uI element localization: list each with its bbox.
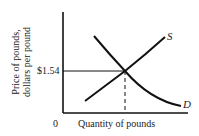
supply-curve: [85, 37, 165, 101]
y-axis-label-line-2: dollars per pound: [21, 27, 32, 97]
demand-label: D: [182, 98, 191, 110]
origin-label: 0: [53, 118, 58, 129]
supply-label: S: [167, 30, 173, 42]
x-axis-label: Quantity of pounds: [78, 118, 155, 129]
y-axis-label-line-1: Price of pounds,: [10, 29, 21, 94]
price-tick-label: $1.54: [37, 65, 60, 76]
supply-demand-chart: S D $1.54 0 Quantity of pounds Price of …: [0, 0, 199, 136]
